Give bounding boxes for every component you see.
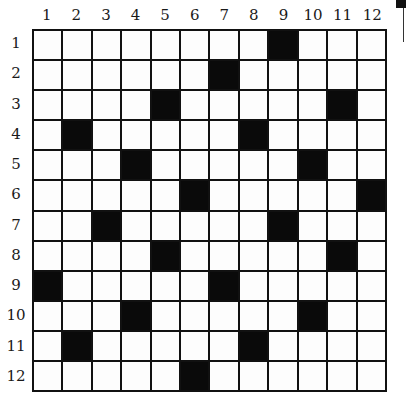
white-cell (122, 212, 149, 240)
white-cell (240, 61, 267, 89)
white-cell (93, 242, 120, 270)
column-label: 1 (32, 8, 62, 23)
white-cell (269, 302, 296, 330)
white-cell (299, 121, 326, 149)
white-cell (210, 332, 237, 360)
white-cell (34, 91, 61, 119)
white-cell (63, 302, 90, 330)
white-cell (122, 91, 149, 119)
crossword-diagram: 123456789101112 123456789101112 (0, 0, 406, 397)
white-cell (63, 362, 90, 390)
white-cell (122, 31, 149, 59)
row-label: 1 (2, 36, 30, 51)
white-cell (181, 272, 208, 300)
black-cell (328, 91, 355, 119)
black-cell (210, 272, 237, 300)
white-cell (328, 61, 355, 89)
white-cell (210, 31, 237, 59)
white-cell (181, 332, 208, 360)
white-cell (152, 272, 179, 300)
white-cell (93, 61, 120, 89)
white-cell (240, 302, 267, 330)
black-cell (181, 362, 208, 390)
white-cell (269, 181, 296, 209)
crossword-grid (32, 29, 387, 392)
white-cell (122, 121, 149, 149)
black-cell (328, 242, 355, 270)
black-cell (152, 91, 179, 119)
column-label: 10 (298, 8, 328, 23)
white-cell (63, 242, 90, 270)
column-label: 7 (210, 8, 240, 23)
white-cell (299, 61, 326, 89)
column-label: 2 (62, 8, 92, 23)
white-cell (34, 31, 61, 59)
white-cell (93, 362, 120, 390)
white-cell (152, 61, 179, 89)
white-cell (63, 272, 90, 300)
black-cell (299, 151, 326, 179)
white-cell (34, 181, 61, 209)
white-cell (34, 332, 61, 360)
white-cell (93, 332, 120, 360)
white-cell (328, 212, 355, 240)
white-cell (299, 181, 326, 209)
white-cell (34, 151, 61, 179)
white-cell (299, 91, 326, 119)
white-cell (34, 362, 61, 390)
white-cell (122, 181, 149, 209)
row-label: 10 (2, 308, 30, 323)
white-cell (210, 362, 237, 390)
white-cell (34, 121, 61, 149)
corner-mark (396, 0, 406, 8)
corner-line (403, 8, 404, 42)
white-cell (240, 272, 267, 300)
white-cell (122, 242, 149, 270)
white-cell (240, 242, 267, 270)
column-label: 3 (91, 8, 121, 23)
white-cell (358, 212, 385, 240)
white-cell (210, 121, 237, 149)
white-cell (93, 302, 120, 330)
black-cell (240, 332, 267, 360)
row-label: 7 (2, 218, 30, 233)
black-cell (122, 151, 149, 179)
white-cell (63, 91, 90, 119)
black-cell (122, 302, 149, 330)
column-label: 5 (150, 8, 180, 23)
white-cell (358, 272, 385, 300)
white-cell (152, 121, 179, 149)
row-label: 12 (2, 369, 30, 384)
black-cell (93, 212, 120, 240)
white-cell (181, 31, 208, 59)
black-cell (63, 121, 90, 149)
white-cell (269, 332, 296, 360)
white-cell (210, 212, 237, 240)
black-cell (269, 212, 296, 240)
row-label: 8 (2, 248, 30, 263)
white-cell (181, 302, 208, 330)
white-cell (152, 332, 179, 360)
white-cell (358, 151, 385, 179)
row-label: 11 (2, 339, 30, 354)
white-cell (93, 121, 120, 149)
column-label: 11 (328, 8, 358, 23)
black-cell (152, 242, 179, 270)
white-cell (328, 31, 355, 59)
white-cell (240, 31, 267, 59)
white-cell (210, 181, 237, 209)
white-cell (358, 362, 385, 390)
black-cell (299, 302, 326, 330)
white-cell (240, 181, 267, 209)
white-cell (181, 242, 208, 270)
white-cell (299, 362, 326, 390)
white-cell (152, 302, 179, 330)
white-cell (269, 151, 296, 179)
column-label: 9 (269, 8, 299, 23)
white-cell (328, 272, 355, 300)
white-cell (152, 151, 179, 179)
black-cell (63, 332, 90, 360)
row-label: 3 (2, 97, 30, 112)
white-cell (358, 332, 385, 360)
black-cell (34, 272, 61, 300)
